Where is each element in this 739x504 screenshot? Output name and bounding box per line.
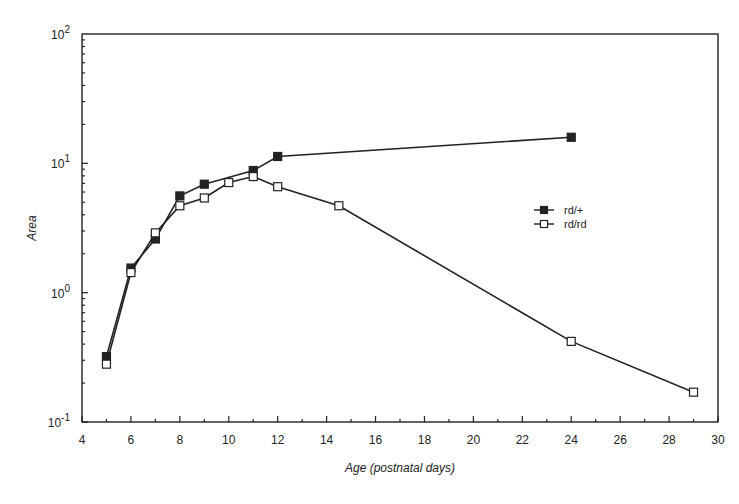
y-axis-title: Area: [25, 215, 39, 242]
x-tick-label: 28: [662, 433, 676, 447]
x-tick-label: 12: [271, 433, 285, 447]
y-tick-label: 100: [51, 283, 70, 301]
open-square-marker: [176, 202, 184, 210]
x-tick-label: 26: [613, 433, 627, 447]
open-square-icon: [541, 221, 548, 228]
series-rd-plus: [102, 133, 575, 360]
axes: [82, 34, 718, 422]
x-axis-title: Age (postnatal days): [344, 461, 455, 475]
filled-square-marker: [567, 133, 575, 141]
x-tick-label: 6: [128, 433, 135, 447]
x-axis-ticks: 4681012141618202224262830: [79, 416, 725, 447]
open-square-marker: [567, 337, 575, 345]
open-square-marker: [690, 388, 698, 396]
open-square-marker: [127, 269, 135, 277]
y-tick-label: 102: [51, 24, 70, 42]
filled-square-icon: [541, 207, 548, 214]
x-tick-label: 8: [177, 433, 184, 447]
x-tick-label: 30: [711, 433, 725, 447]
filled-square-marker: [200, 180, 208, 188]
x-tick-label: 16: [369, 433, 383, 447]
plot-frame: [82, 34, 718, 422]
open-square-marker: [200, 194, 208, 202]
open-square-marker: [249, 173, 257, 181]
x-tick-label: 4: [79, 433, 86, 447]
y-tick-label: 101: [51, 153, 70, 171]
x-tick-label: 20: [467, 433, 481, 447]
legend: rd/+rd/rd: [534, 204, 587, 230]
filled-square-marker: [274, 152, 282, 160]
filled-square-marker: [176, 192, 184, 200]
open-square-marker: [102, 360, 110, 368]
legend-label: rd/+: [564, 204, 583, 216]
x-tick-label: 24: [565, 433, 579, 447]
chart: 10-1100101102 4681012141618202224262830 …: [0, 0, 739, 504]
x-tick-label: 22: [516, 433, 530, 447]
open-square-marker: [274, 183, 282, 191]
open-square-marker: [335, 202, 343, 210]
series-line: [106, 137, 571, 356]
series-line: [106, 177, 693, 393]
x-tick-label: 18: [418, 433, 432, 447]
open-square-marker: [151, 229, 159, 237]
plot-series: [102, 133, 697, 396]
series-rd-rd: [102, 173, 697, 397]
x-tick-label: 14: [320, 433, 334, 447]
y-tick-label: 10-1: [48, 412, 71, 430]
legend-label: rd/rd: [564, 218, 587, 230]
open-square-marker: [225, 179, 233, 187]
x-tick-label: 10: [222, 433, 236, 447]
